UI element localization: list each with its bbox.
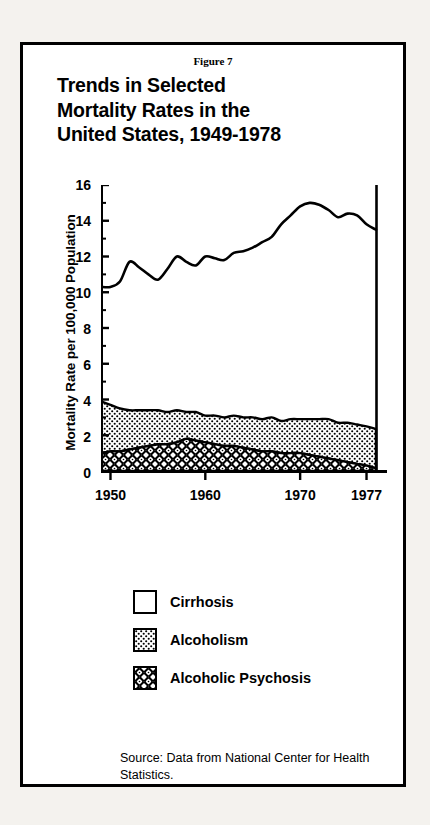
y-tick-label-6: 6 [65, 357, 91, 373]
legend-item-alcoholism: Alcoholism [133, 628, 403, 652]
legend-label-alcoholic-psychosis: Alcoholic Psychosis [170, 670, 311, 686]
legend-swatch-cirrhosis [133, 590, 157, 614]
figure-number: Figure 7 [23, 55, 403, 67]
legend-swatch-alcoholism [133, 628, 157, 652]
title-line-1: Trends in Selected [57, 73, 377, 98]
x-tick-label-1950: 1950 [90, 487, 130, 503]
y-tick-label-2: 2 [65, 429, 91, 445]
page-title: Trends in Selected Mortality Rates in th… [57, 73, 377, 147]
title-line-3: United States, 1949-1978 [57, 122, 377, 147]
y-tick-label-12: 12 [65, 249, 91, 265]
y-tick-label-4: 4 [65, 393, 91, 409]
legend-item-alcoholic-psychosis: Alcoholic Psychosis [133, 666, 403, 690]
line-cirrhosis [101, 203, 376, 287]
title-line-2: Mortality Rates in the [57, 98, 377, 123]
plot-area [101, 185, 387, 473]
chart-svg [101, 185, 387, 485]
series-layer [101, 203, 376, 471]
chart-container: Mortality Rate per 100,000 Population 16… [23, 175, 403, 575]
y-tick-label-8: 8 [65, 321, 91, 337]
y-tick-label-0: 0 [65, 465, 91, 481]
x-tick-label-1970: 1970 [280, 487, 320, 503]
legend-item-cirrhosis: Cirrhosis [133, 590, 403, 614]
x-tick-label-1977: 1977 [347, 487, 387, 503]
legend-label-cirrhosis: Cirrhosis [170, 594, 234, 610]
x-tick-label-1960: 1960 [185, 487, 225, 503]
legend-swatch-alcoholic-psychosis [133, 666, 157, 690]
chart-legend: Cirrhosis Alcoholism Alcoholic Psychosis [133, 590, 403, 704]
figure-frame: Figure 7 Trends in Selected Mortality Ra… [20, 42, 406, 787]
source-note: Source: Data from National Center for He… [120, 750, 400, 785]
y-tick-label-16: 16 [65, 177, 91, 193]
legend-label-alcoholism: Alcoholism [170, 632, 248, 648]
y-tick-label-10: 10 [65, 285, 91, 301]
y-tick-label-14: 14 [65, 213, 91, 229]
page-background: Figure 7 Trends in Selected Mortality Ra… [0, 0, 430, 825]
